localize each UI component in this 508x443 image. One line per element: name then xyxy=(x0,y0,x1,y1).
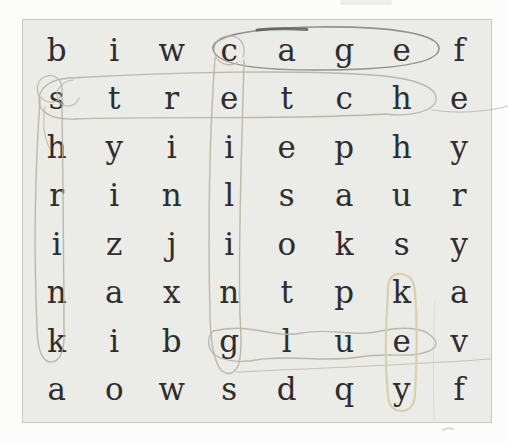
grid-letter-r8c2: o xyxy=(86,366,144,415)
grid-letter-r7c4: g xyxy=(201,317,259,366)
grid-letter-r7c7: e xyxy=(373,317,431,366)
grid-letter-r3c3: i xyxy=(143,123,201,172)
grid-letter-r7c8: v xyxy=(431,317,489,366)
grid-letter-r6c1: n xyxy=(28,269,86,318)
grid-letter-r8c5: d xyxy=(258,366,316,415)
grid-letter-r5c4: i xyxy=(201,220,259,269)
grid-letter-r5c1: i xyxy=(28,220,86,269)
grid-letter-r8c8: f xyxy=(431,366,489,415)
grid-letter-r7c1: k xyxy=(28,317,86,366)
grid-letter-r4c3: n xyxy=(143,172,201,221)
grid-letter-r1c1: b xyxy=(28,26,86,75)
grid-letter-r5c5: o xyxy=(258,220,316,269)
grid-letter-r1c6: g xyxy=(316,26,374,75)
grid-letter-r6c8: a xyxy=(431,269,489,318)
grid-letter-r1c8: f xyxy=(431,26,489,75)
worksheet: biwcagefstretchehyiiephyrinlsaurizjioksy… xyxy=(0,0,508,443)
grid-letter-r4c4: l xyxy=(201,172,259,221)
letter-grid: biwcagefstretchehyiiephyrinlsaurizjioksy… xyxy=(28,26,488,414)
grid-letter-r2c1: s xyxy=(28,75,86,124)
grid-letter-r3c7: h xyxy=(373,123,431,172)
grid-letter-r7c5: l xyxy=(258,317,316,366)
grid-letter-r6c3: x xyxy=(143,269,201,318)
grid-letter-r7c3: b xyxy=(143,317,201,366)
paper-mark xyxy=(443,428,453,430)
grid-letter-r3c6: p xyxy=(316,123,374,172)
grid-letter-r6c2: a xyxy=(86,269,144,318)
paper-smudge xyxy=(340,0,392,5)
grid-letter-r8c7: y xyxy=(373,366,431,415)
grid-letter-r5c3: j xyxy=(143,220,201,269)
grid-letter-r3c1: h xyxy=(28,123,86,172)
grid-letter-r3c8: y xyxy=(431,123,489,172)
grid-letter-r1c7: e xyxy=(373,26,431,75)
grid-letter-r2c4: e xyxy=(201,75,259,124)
grid-letter-r3c5: e xyxy=(258,123,316,172)
grid-letter-r2c8: e xyxy=(431,75,489,124)
grid-letter-r7c6: u xyxy=(316,317,374,366)
grid-letter-r5c6: k xyxy=(316,220,374,269)
grid-letter-r2c3: r xyxy=(143,75,201,124)
grid-letter-r2c5: t xyxy=(258,75,316,124)
grid-letter-r2c6: c xyxy=(316,75,374,124)
grid-letter-r8c1: a xyxy=(28,366,86,415)
grid-letter-r4c1: r xyxy=(28,172,86,221)
grid-letter-r4c7: u xyxy=(373,172,431,221)
grid-letter-r1c3: w xyxy=(143,26,201,75)
grid-letter-r8c3: w xyxy=(143,366,201,415)
grid-letter-r2c7: h xyxy=(373,75,431,124)
grid-letter-r6c6: p xyxy=(316,269,374,318)
grid-letter-r5c8: y xyxy=(431,220,489,269)
grid-letter-r4c6: a xyxy=(316,172,374,221)
grid-letter-r8c4: s xyxy=(201,366,259,415)
grid-letter-r7c2: i xyxy=(86,317,144,366)
grid-letter-r6c4: n xyxy=(201,269,259,318)
grid-letter-r3c2: y xyxy=(86,123,144,172)
grid-letter-r5c2: z xyxy=(86,220,144,269)
grid-letter-r4c2: i xyxy=(86,172,144,221)
grid-letter-r6c5: t xyxy=(258,269,316,318)
grid-letter-r5c7: s xyxy=(373,220,431,269)
grid-letter-r3c4: i xyxy=(201,123,259,172)
grid-letter-r8c6: q xyxy=(316,366,374,415)
grid-letter-r4c8: r xyxy=(431,172,489,221)
grid-letter-r6c7: k xyxy=(373,269,431,318)
grid-letter-r1c2: i xyxy=(86,26,144,75)
grid-letter-r1c4: c xyxy=(201,26,259,75)
grid-letter-r1c5: a xyxy=(258,26,316,75)
grid-letter-r4c5: s xyxy=(258,172,316,221)
grid-letter-r2c2: t xyxy=(86,75,144,124)
